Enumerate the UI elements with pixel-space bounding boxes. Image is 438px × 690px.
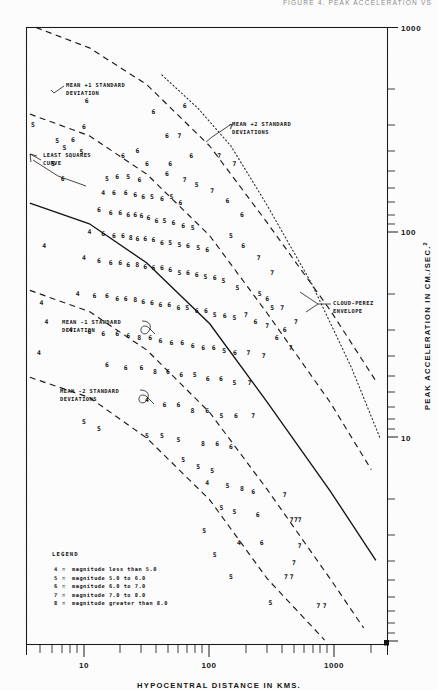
data-point-magnitude-7: 7 — [244, 311, 248, 319]
data-point-magnitude-7: 7 — [232, 160, 236, 168]
data-point-magnitude-6: 6 — [126, 211, 130, 219]
data-point-magnitude-4: 4 — [40, 299, 44, 307]
data-point-magnitude-6: 6 — [159, 337, 163, 345]
data-point-magnitude-6: 6 — [177, 304, 181, 312]
data-point-magnitude-6: 6 — [169, 339, 173, 347]
data-point-magnitude-6: 6 — [105, 292, 109, 300]
data-point-magnitude-6: 6 — [205, 246, 209, 254]
data-point-magnitude-8: 8 — [153, 368, 157, 376]
data-point-magnitude-6: 6 — [92, 292, 96, 300]
data-point-magnitude-5: 5 — [236, 284, 240, 292]
data-point-magnitude-6: 6 — [124, 295, 128, 303]
data-point-magnitude-6: 6 — [139, 364, 143, 372]
data-point-magnitude-6: 6 — [151, 236, 155, 244]
data-point-magnitude-5: 5 — [202, 527, 206, 535]
annotation-mean-minus-2: MEAN -2 STANDARD DEVIATIONS — [60, 388, 154, 404]
legend-label-6: magnitude 6.0 to 7.0 — [72, 583, 146, 590]
data-point-magnitude-5: 5 — [196, 463, 200, 471]
legend-equals-sign: = — [62, 592, 66, 598]
data-point-magnitude-6: 6 — [159, 301, 163, 309]
x-axis-title: HYPOCENTRAL DISTANCE IN KMS. — [137, 681, 301, 690]
data-point-magnitude-6: 6 — [118, 209, 122, 217]
data-point-magnitude-4: 4 — [82, 254, 86, 262]
annotation-mean-plus-2-line2: DEVIATIONS — [232, 129, 269, 135]
data-point-magnitude-6: 6 — [205, 407, 209, 415]
legend-symbol-7: 7 — [54, 592, 58, 598]
annotation-mean-minus-1-line2: DEVIATION — [62, 327, 95, 333]
data-point-magnitude-6: 6 — [101, 230, 105, 238]
data-point-magnitude-6: 6 — [265, 295, 269, 303]
data-point-magnitude-6: 6 — [139, 212, 143, 220]
x-tick-label-10: 10 — [79, 661, 89, 670]
data-point-magnitude-8: 8 — [240, 485, 244, 493]
data-point-magnitude-6: 6 — [151, 108, 155, 116]
data-point-magnitude-7: 7 — [262, 352, 266, 360]
annotation-mean-minus-2-line2: DEVIATIONS — [60, 396, 97, 402]
y-axis-title-group: PEAK ACCELERATION IN CM./SEC.2 — [422, 241, 432, 410]
data-points: 5666555666766756564666656566666666656654… — [31, 97, 327, 610]
data-point-magnitude-7: 7 — [265, 322, 269, 330]
data-point-magnitude-6: 6 — [133, 211, 137, 219]
data-point-magnitude-6: 6 — [167, 301, 171, 309]
data-point-magnitude-5: 5 — [195, 181, 199, 189]
data-point-magnitude-8: 8 — [129, 234, 133, 242]
data-point-magnitude-5: 5 — [168, 239, 172, 247]
data-point-magnitude-5: 5 — [178, 241, 182, 249]
data-point-magnitude-6: 6 — [135, 147, 139, 155]
legend-equals-sign: = — [62, 583, 66, 589]
data-point-magnitude-6: 6 — [126, 261, 130, 269]
data-point-magnitude-6: 6 — [145, 160, 149, 168]
data-point-magnitude-6: 6 — [162, 401, 166, 409]
data-point-magnitude-5: 5 — [55, 137, 59, 145]
data-point-magnitude-6: 6 — [256, 511, 260, 519]
annotation-mean-plus-1-line1: MEAN +1 STANDARD — [66, 82, 125, 88]
data-point-magnitude-5: 5 — [258, 290, 262, 298]
data-point-magnitude-6: 6 — [195, 271, 199, 279]
curve-mean-1-standard-deviation — [30, 114, 371, 470]
data-point-magnitude-5: 5 — [203, 273, 207, 281]
data-point-magnitude-5: 5 — [105, 175, 109, 183]
data-point-magnitude-6: 6 — [112, 232, 116, 240]
data-point-magnitude-6: 6 — [150, 299, 154, 307]
data-point-magnitude-4: 4 — [76, 290, 80, 298]
data-point-magnitude-5: 5 — [270, 304, 274, 312]
data-point-magnitude-6: 6 — [181, 222, 185, 230]
data-point-magnitude-6: 6 — [234, 412, 238, 420]
data-point-magnitude-6: 6 — [275, 334, 279, 342]
data-point-magnitude-6: 6 — [148, 334, 152, 342]
legend-equals-sign: = — [62, 566, 66, 572]
data-point-magnitude-6: 6 — [233, 349, 237, 357]
data-point-magnitude-6: 6 — [168, 266, 172, 274]
data-point-magnitude-6: 6 — [177, 401, 181, 409]
data-point-magnitude-6: 6 — [213, 274, 217, 282]
data-point-magnitude-5: 5 — [210, 467, 214, 475]
y-tick-label-100: 100 — [401, 228, 416, 237]
data-point-magnitude-6: 6 — [168, 160, 172, 168]
data-point-magnitude-6: 6 — [121, 152, 125, 160]
legend-symbol-8: 8 — [54, 600, 58, 606]
data-point-magnitude-7: 7 — [247, 349, 251, 357]
data-point-magnitude-4: 4 — [101, 189, 105, 197]
annotation-mean-plus-2-line1: MEAN +2 STANDARD — [232, 121, 291, 127]
data-point-magnitude-8: 8 — [133, 296, 137, 304]
legend-label-4: magnitude less than 5.0 — [72, 566, 157, 573]
data-point-magnitude-7: 7 — [210, 187, 214, 195]
y-axis-title: PEAK ACCELERATION IN CM./SEC.2 — [422, 241, 432, 410]
data-point-magnitude-7: 7 — [251, 412, 255, 420]
data-point-magnitude-7: 7 — [280, 304, 284, 312]
annotation-mean-minus-1-line1: MEAN -1 STANDARD — [62, 319, 121, 325]
data-point-magnitude-7: 7 — [298, 542, 302, 550]
data-point-magnitude-6: 6 — [180, 339, 184, 347]
data-point-magnitude-6: 6 — [240, 211, 244, 219]
data-point-magnitude-6: 6 — [160, 239, 164, 247]
data-point-magnitude-4: 4 — [37, 349, 41, 357]
data-point-magnitude-5: 5 — [191, 224, 195, 232]
data-point-magnitude-7: 7 — [292, 559, 296, 567]
data-point-magnitude-6: 6 — [121, 232, 125, 240]
data-point-magnitude-6: 6 — [206, 375, 210, 383]
data-point-magnitude-6: 6 — [166, 368, 170, 376]
data-point-magnitude-6: 6 — [115, 173, 119, 181]
data-point-magnitude-7: 7 — [248, 379, 252, 387]
plot-frame — [27, 28, 388, 645]
legend-title: LEGEND — [52, 551, 79, 557]
